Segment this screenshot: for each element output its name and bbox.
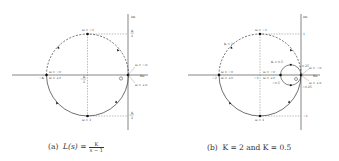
svg-text:ω = +0: ω = +0 [263, 76, 275, 80]
arrow-icon [290, 49, 293, 52]
svg-text:2: 2 [131, 116, 133, 120]
panel-a-plot: Im Re ω = −1 ω = 1 ω = −0 ω = +0 −K − K … [12, 14, 148, 130]
origin-marker [295, 78, 298, 81]
re-axis-label: Re [313, 74, 317, 78]
svg-text:2: 2 [83, 80, 85, 84]
svg-text:K: K [131, 29, 134, 33]
svg-text:ω = −0: ω = −0 [263, 70, 275, 74]
origin-marker [119, 77, 122, 80]
label-k-small: K = 0.5 [271, 60, 283, 64]
arrow-icon [57, 47, 59, 50]
label-left-omega-bot: ω = +0 [49, 76, 61, 80]
svg-text:ω = +∞: ω = +∞ [309, 81, 322, 85]
arrow-icon [288, 100, 290, 103]
nyquist-figure: Im Re ω = −1 ω = 1 ω = −0 ω = +0 −K − K … [0, 0, 339, 161]
svg-text:ω = −∞: ω = −∞ [309, 66, 322, 70]
im-axis-label: Im [303, 15, 307, 19]
lower-semicircle-k05 [281, 75, 302, 85]
arrow-icon [115, 100, 117, 103]
svg-text:−0.25: −0.25 [302, 85, 312, 89]
svg-text:ω = −0: ω = −0 [221, 70, 233, 74]
svg-text:−1: −1 [254, 76, 259, 80]
panel-b-plot: Im Re K = 2 K = 0.5 ω = −1 ω = 1 ω = −0 … [188, 14, 322, 130]
svg-text:ω = +0: ω = +0 [221, 76, 233, 80]
svg-text:−1: −1 [303, 114, 308, 118]
svg-text:ω = −1: ω = −1 [255, 28, 267, 32]
label-right-bot: ω = +∞ [135, 83, 148, 87]
label-right-top: ω = −∞ [135, 63, 148, 67]
arrow-icon [117, 49, 120, 52]
svg-text:1: 1 [303, 32, 305, 36]
label-bottom-omega: ω = 1 [82, 118, 91, 122]
svg-text:K: K [131, 111, 134, 115]
label-top-omega: ω = −1 [82, 28, 94, 32]
svg-text:2: 2 [131, 34, 133, 38]
upper-semicircle-k05 [281, 65, 302, 75]
im-axis-label: Im [131, 15, 135, 19]
caption-fraction: K s − 1 [89, 142, 104, 153]
caption-b: (b) K = 2 and K = 0.5 [207, 143, 291, 152]
re-axis-label: Re [140, 74, 144, 78]
svg-text:K: K [83, 75, 86, 79]
svg-text:ω = 1: ω = 1 [255, 118, 264, 122]
svg-text:−2: −2 [212, 76, 217, 80]
svg-text:−0.5: −0.5 [272, 81, 280, 85]
label-left-value: −K [39, 76, 45, 80]
arrow-icon [230, 47, 232, 50]
label-left-omega-top: ω = −0 [49, 70, 61, 74]
caption-a: (a) L(s) = K s − 1 [48, 142, 104, 153]
label-k-large: K = 2 [224, 42, 233, 46]
